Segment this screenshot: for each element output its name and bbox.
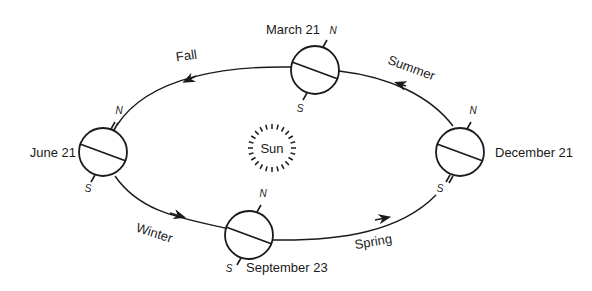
north-pole-label: N <box>469 105 477 116</box>
arrow-icon-summer <box>400 84 406 86</box>
globe-september: N S September 23 <box>225 188 328 275</box>
globe-june: N S June 21 <box>30 105 127 194</box>
orbit-segment-winter <box>115 176 225 228</box>
date-label-september: September 23 <box>246 260 328 275</box>
date-label-march: March 21 <box>266 22 320 37</box>
south-pole-label: S <box>226 263 233 274</box>
season-label-fall: Fall <box>175 47 198 65</box>
orbit-diagram: Sun N S March 21 N S June 21 <box>0 0 592 291</box>
orbit-segment-fall <box>117 67 291 125</box>
south-pole-label: S <box>85 183 92 194</box>
orbit-path <box>115 67 453 240</box>
south-pole-label: S <box>437 183 444 194</box>
season-label-winter: Winter <box>134 220 175 246</box>
globe-march: N S March 21 <box>266 22 339 114</box>
south-pole-label: S <box>297 103 304 114</box>
globe-december: N S December 21 <box>436 105 573 194</box>
sun-label: Sun <box>260 141 283 156</box>
season-label-spring: Spring <box>353 231 393 252</box>
date-label-june: June 21 <box>30 145 76 160</box>
arrow-icon-spring <box>375 218 385 220</box>
direction-arrows <box>170 76 406 220</box>
north-pole-label: N <box>259 188 267 199</box>
north-pole-label: N <box>329 25 337 36</box>
season-label-summer: Summer <box>386 52 438 83</box>
date-label-december: December 21 <box>495 145 573 160</box>
sun: Sun <box>248 124 296 172</box>
orbit-segment-summer <box>339 71 453 126</box>
north-pole-label: N <box>115 105 123 116</box>
orbit-segment-spring <box>273 195 436 240</box>
